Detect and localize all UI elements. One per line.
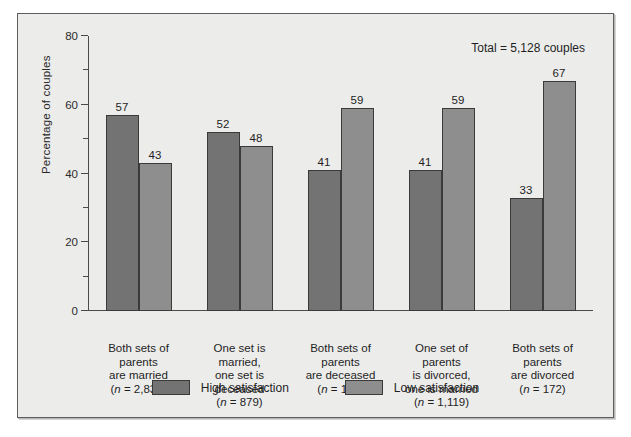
legend-item: Low satisfaction [345, 380, 479, 395]
bar: 48 [240, 146, 273, 311]
y-tick-label: 20 [65, 236, 78, 248]
y-tick-label: 40 [65, 168, 78, 180]
legend-label: High satisfaction [201, 381, 289, 395]
category-label-line: (n = 879) [177, 396, 302, 410]
bar: 59 [442, 108, 475, 311]
y-tick-label: 0 [72, 305, 78, 317]
bar-value-label: 67 [553, 67, 566, 79]
y-tick-major [81, 241, 88, 242]
y-tick-major [81, 104, 88, 105]
y-tick-label: 60 [65, 99, 78, 111]
bar: 67 [543, 81, 576, 311]
bar: 52 [207, 132, 240, 311]
legend-label: Low satisfaction [394, 381, 479, 395]
category-label-line: parents [480, 356, 605, 370]
chart-figure: Total = 5,128 couples Percentage of coup… [17, 13, 614, 418]
category-label-line: (n = 1,119) [379, 396, 504, 410]
y-tick-major [81, 35, 88, 36]
y-tick-major [81, 310, 88, 311]
legend-item: High satisfaction [152, 380, 289, 395]
bar: 41 [308, 170, 341, 311]
y-tick-label: 80 [65, 30, 78, 42]
chart-legend: High satisfactionLow satisfaction [18, 380, 613, 395]
bar-value-label: 41 [318, 156, 331, 168]
bar-group: 4159 [391, 36, 492, 311]
y-tick-major [81, 173, 88, 174]
category-label-line: Both sets of [480, 342, 605, 356]
bar: 33 [510, 198, 543, 311]
bar: 59 [341, 108, 374, 311]
plot-area: 020406080 57435248415941593367 Both sets… [88, 36, 593, 311]
bar-group: 3367 [492, 36, 593, 311]
bar: 41 [409, 170, 442, 311]
bar-value-label: 57 [116, 101, 129, 113]
legend-swatch [345, 380, 383, 395]
bar-value-label: 33 [520, 184, 533, 196]
bar-value-label: 41 [419, 156, 432, 168]
legend-swatch [152, 380, 190, 395]
bar-value-label: 59 [351, 94, 364, 106]
y-axis-title: Percentage of couples [40, 55, 52, 174]
bar: 57 [106, 115, 139, 311]
bar-value-label: 48 [250, 132, 263, 144]
bar-value-label: 43 [149, 149, 162, 161]
bar-value-label: 59 [452, 94, 465, 106]
bar-group: 4159 [290, 36, 391, 311]
bar-group: 5248 [189, 36, 290, 311]
bar: 43 [139, 163, 172, 311]
bar-value-label: 52 [217, 118, 230, 130]
bar-group: 5743 [88, 36, 189, 311]
